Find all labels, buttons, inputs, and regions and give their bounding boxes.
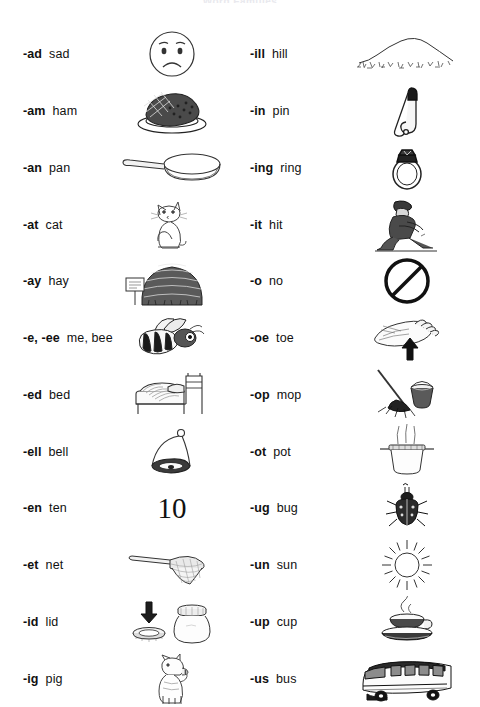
word-label: sad <box>49 47 69 61</box>
word-family-row[interactable]: -at cat <box>0 196 240 253</box>
mop-and-bucket-icon <box>334 367 480 424</box>
word-label: ham <box>53 104 78 118</box>
page-title: Word Families <box>0 0 480 3</box>
word-label: bell <box>48 445 68 459</box>
rime-label: -ed <box>23 388 42 402</box>
word-family-row[interactable]: -ill hill <box>240 26 480 83</box>
word-family-row[interactable]: -it hit <box>240 196 480 253</box>
word-family-columns: -ad sad -am <box>0 26 480 707</box>
rime-label: -an <box>23 161 42 175</box>
frying-pan-icon <box>104 140 240 197</box>
ham-on-plate-icon <box>104 83 240 140</box>
foot-toe-arrow-icon <box>334 310 480 367</box>
steaming-pot-icon <box>334 423 480 480</box>
haystack-icon <box>104 253 240 310</box>
row-labels: -it hit <box>240 218 334 232</box>
beetle-icon <box>334 480 480 537</box>
row-labels: -am ham <box>0 104 104 118</box>
row-labels: -id lid <box>0 615 104 629</box>
word-label: net <box>46 558 64 572</box>
row-labels: -us bus <box>240 672 334 686</box>
rime-label: -it <box>250 218 262 232</box>
word-family-row[interactable]: -op mop <box>240 367 480 424</box>
safety-pin-icon <box>334 83 480 140</box>
rime-label: -e, -ee <box>23 331 60 345</box>
word-family-row[interactable]: -am ham <box>0 83 240 140</box>
word-family-row[interactable]: -up cup <box>240 594 480 651</box>
word-label: pan <box>49 161 70 175</box>
word-family-row[interactable]: -o no <box>240 253 480 310</box>
row-labels: -ig pig <box>0 672 104 686</box>
row-labels: -ing ring <box>240 161 334 175</box>
row-labels: -en ten <box>0 501 104 515</box>
row-labels: -an pan <box>0 161 104 175</box>
word-label: ring <box>280 161 301 175</box>
number-ten-icon: 10 <box>104 480 240 537</box>
word-label: bed <box>49 388 70 402</box>
rime-label: -us <box>250 672 269 686</box>
rime-label: -ad <box>23 47 42 61</box>
word-family-row[interactable]: -an pan <box>0 140 240 197</box>
word-label: cat <box>46 218 63 232</box>
word-label: sun <box>277 558 297 572</box>
sitting-cat-icon <box>104 196 240 253</box>
word-family-row[interactable]: -et net <box>0 537 240 594</box>
row-labels: -ed bed <box>0 388 104 402</box>
word-family-row[interactable]: -ell bell <box>0 423 240 480</box>
word-family-row[interactable]: -ot pot <box>240 423 480 480</box>
butterfly-net-icon <box>104 537 240 594</box>
row-labels: -o no <box>240 274 334 288</box>
word-label: toe <box>276 331 294 345</box>
word-family-row[interactable]: -oe toe <box>240 310 480 367</box>
rime-label: -ill <box>250 47 265 61</box>
row-labels: -ay hay <box>0 274 104 288</box>
rime-label: -en <box>23 501 42 515</box>
row-labels: -op mop <box>240 388 334 402</box>
word-label: ten <box>49 501 67 515</box>
left-column: -ad sad -am <box>0 26 240 707</box>
word-family-row[interactable]: -us bus <box>240 650 480 707</box>
word-family-row[interactable]: -ing ring <box>240 140 480 197</box>
worksheet-page: Word Families -ad sad <box>0 0 480 707</box>
word-label: hill <box>272 47 288 61</box>
rime-label: -am <box>23 104 46 118</box>
word-label: mop <box>277 388 302 402</box>
word-family-row[interactable]: -en ten 10 <box>0 480 240 537</box>
rime-label: -in <box>250 104 266 118</box>
number-ten-text: 10 <box>158 494 187 523</box>
rime-label: -ing <box>250 161 273 175</box>
sun-icon <box>334 537 480 594</box>
word-label: pin <box>273 104 290 118</box>
rime-label: -at <box>23 218 39 232</box>
word-family-row[interactable]: -ed bed <box>0 367 240 424</box>
row-labels: -un sun <box>240 558 334 572</box>
rime-label: -et <box>23 558 39 572</box>
word-family-row[interactable]: -e, -ee me, bee <box>0 310 240 367</box>
word-family-row[interactable]: -ay hay <box>0 253 240 310</box>
word-label: hay <box>48 274 68 288</box>
rime-label: -o <box>250 274 262 288</box>
pig-icon <box>104 650 240 707</box>
word-family-row[interactable]: -in pin <box>240 83 480 140</box>
word-label: hit <box>269 218 283 232</box>
rime-label: -ig <box>23 672 39 686</box>
rime-label: -id <box>23 615 39 629</box>
word-family-row[interactable]: -ad sad <box>0 26 240 83</box>
person-hitting-icon <box>334 196 480 253</box>
row-labels: -ug bug <box>240 501 334 515</box>
rime-label: -ot <box>250 445 266 459</box>
word-label: pig <box>46 672 63 686</box>
word-label: pot <box>273 445 291 459</box>
word-label: no <box>269 274 283 288</box>
word-family-row[interactable]: -ig pig <box>0 650 240 707</box>
bell-icon <box>104 423 240 480</box>
word-family-row[interactable]: -ug bug <box>240 480 480 537</box>
word-family-row[interactable]: -un sun <box>240 537 480 594</box>
word-family-row[interactable]: -id lid <box>0 594 240 651</box>
rime-label: -op <box>250 388 270 402</box>
ring-icon <box>334 140 480 197</box>
row-labels: -ell bell <box>0 445 104 459</box>
lid-and-jar-icon <box>104 594 240 651</box>
row-labels: -oe toe <box>240 331 334 345</box>
prohibition-sign-icon <box>334 253 480 310</box>
